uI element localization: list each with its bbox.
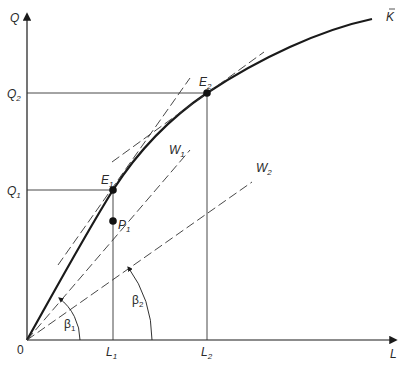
tick-label-q1: Q1 bbox=[7, 184, 21, 200]
production-curve bbox=[27, 19, 372, 340]
tick-label-q2: Q2 bbox=[7, 87, 21, 103]
tangent-line-e1 bbox=[58, 78, 190, 265]
curve-label-k: K bbox=[386, 9, 395, 24]
svg-text:K: K bbox=[386, 10, 395, 24]
svg-text:β1: β1 bbox=[64, 317, 76, 333]
label-e2: E2 bbox=[199, 75, 212, 91]
svg-text:W1: W1 bbox=[169, 143, 185, 159]
point-p1 bbox=[109, 217, 117, 225]
svg-text:E2: E2 bbox=[199, 75, 212, 91]
x-axis-label: L bbox=[390, 347, 397, 361]
tangent-line-e2 bbox=[112, 52, 264, 162]
label-w2: W2 bbox=[256, 161, 272, 177]
label-e1: E1 bbox=[101, 173, 113, 189]
svg-text:W2: W2 bbox=[256, 161, 272, 177]
svg-text:L2: L2 bbox=[201, 345, 213, 361]
svg-text:L1: L1 bbox=[106, 345, 117, 361]
y-axis-label: Q bbox=[10, 11, 19, 25]
svg-text:Q1: Q1 bbox=[7, 184, 21, 200]
svg-text:β2: β2 bbox=[132, 293, 144, 309]
svg-text:E1: E1 bbox=[101, 173, 113, 189]
label-p1: P1 bbox=[118, 218, 130, 234]
label-w1: W1 bbox=[169, 143, 185, 159]
label-beta1: β1 bbox=[64, 317, 76, 333]
svg-text:P1: P1 bbox=[118, 218, 130, 234]
tick-label-l2: L2 bbox=[201, 345, 213, 361]
origin-label: 0 bbox=[17, 343, 24, 357]
label-beta2: β2 bbox=[132, 293, 144, 309]
production-function-diagram: Q L 0 K Q2 Q1 L1 L2 E1 E2 P1 W1 W2 β1 β2 bbox=[0, 0, 409, 366]
svg-text:Q2: Q2 bbox=[7, 87, 21, 103]
tick-label-l1: L1 bbox=[106, 345, 117, 361]
